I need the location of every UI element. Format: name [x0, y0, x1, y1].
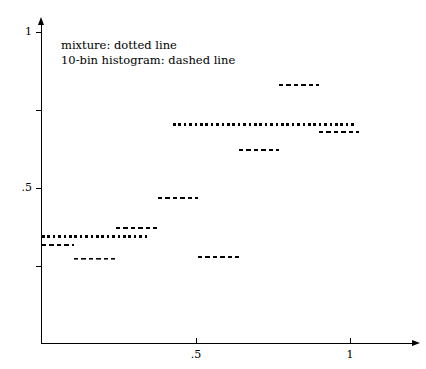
series-segment-dashed	[158, 197, 198, 199]
legend: mixture: dotted line 10-bin histogram: d…	[61, 38, 235, 68]
series-segment-dashed	[239, 149, 279, 151]
x-tick-mark	[350, 338, 351, 344]
y-tick-mark	[36, 110, 42, 111]
x-tick-label: 1	[335, 349, 365, 360]
series-segment-dashed	[279, 84, 319, 86]
series-segment-dashed	[319, 131, 359, 133]
series-segment-dashed	[74, 258, 116, 260]
series-segment-dotted	[173, 123, 355, 126]
legend-item-mixture: mixture: dotted line	[61, 38, 235, 53]
x-axis-arrow-icon	[412, 340, 420, 346]
y-tick-label: .5	[10, 182, 32, 193]
y-tick-mark	[36, 188, 42, 189]
y-axis-line	[41, 24, 42, 344]
series-segment-dashed	[198, 256, 240, 258]
y-tick-label: 1	[10, 26, 32, 37]
x-tick-mark	[196, 338, 197, 344]
series-segment-dashed	[116, 227, 158, 229]
x-tick-label: .5	[181, 349, 211, 360]
y-axis-arrow-icon	[38, 17, 44, 25]
y-tick-mark	[36, 32, 42, 33]
legend-item-histogram: 10-bin histogram: dashed line	[61, 53, 235, 68]
series-segment-dashed	[42, 244, 74, 246]
y-tick-mark	[36, 266, 42, 267]
series-segment-dotted	[42, 235, 148, 238]
chart-plot-area: .51 .51 mixture: dotted line 10-bin hist…	[0, 0, 426, 369]
x-axis-line	[41, 343, 413, 344]
